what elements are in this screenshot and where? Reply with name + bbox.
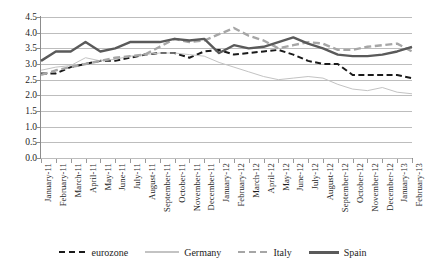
legend-swatch-italy-icon [238, 251, 268, 254]
legend-item-italy[interactable]: Italy [238, 247, 291, 258]
series-line-germany [41, 53, 412, 94]
legend-label: Spain [344, 247, 367, 258]
legend-item-spain[interactable]: Spain [309, 247, 367, 258]
legend-label: Germany [184, 247, 221, 258]
series-line-eurozone [41, 50, 412, 78]
chart-legend: eurozoneGermanyItalySpain [0, 240, 425, 264]
legend-item-eurozone[interactable]: eurozone [59, 247, 129, 258]
legend-swatch-germany-icon [145, 251, 179, 252]
series-lines [0, 0, 425, 269]
legend-swatch-spain-icon [309, 251, 339, 254]
legend-swatch-eurozone-icon [59, 251, 87, 253]
legend-label: eurozone [92, 247, 129, 258]
line-chart: 0.00.51.01.52.02.53.03.54.04.5 January-1… [0, 0, 425, 269]
legend-item-germany[interactable]: Germany [145, 247, 221, 258]
legend-label: Italy [273, 247, 291, 258]
